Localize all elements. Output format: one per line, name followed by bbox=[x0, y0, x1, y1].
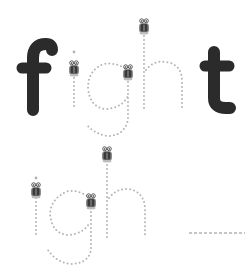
solid-letter-t bbox=[205, 52, 230, 108]
solid-letter-f bbox=[22, 44, 52, 110]
bug-car-start-icon bbox=[69, 61, 79, 77]
i-dot bbox=[35, 177, 38, 180]
dotted-letter-g-row2 bbox=[48, 191, 91, 264]
bug-car-start-icon bbox=[123, 65, 133, 81]
bug-car-start-icon bbox=[102, 147, 112, 163]
bug-car-start-icon bbox=[139, 19, 149, 35]
worksheet-canvas bbox=[0, 0, 246, 271]
bug-car-start-icon bbox=[31, 183, 41, 199]
dotted-letter-h-row1 bbox=[144, 36, 182, 110]
i-dot bbox=[73, 51, 76, 54]
handwriting-worksheet: fight bbox=[0, 0, 246, 271]
bug-car-start-icon bbox=[86, 194, 96, 210]
dotted-letter-h-row2 bbox=[107, 165, 145, 238]
dotted-letter-g-row1 bbox=[86, 64, 128, 136]
